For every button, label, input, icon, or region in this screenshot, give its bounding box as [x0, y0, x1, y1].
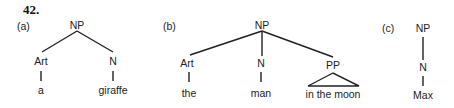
tree-a-root: NP [70, 19, 85, 31]
tree-a-label: (a) [17, 20, 30, 32]
tree-c-root: NP [416, 22, 431, 34]
tree-c-n: N [419, 61, 427, 73]
tree-b-label: (b) [163, 20, 176, 32]
tree-b-pp: PP [326, 59, 340, 71]
tree-b-word-man: man [251, 87, 272, 99]
tree-b-art: Art [180, 57, 194, 69]
tree-a-word-a: a [38, 84, 44, 96]
tree-c-word-max: Max [413, 89, 434, 101]
syntax-tree-figure: 42. (a) NP Art a N giraffe (b) NP Art th… [0, 0, 454, 108]
tree-a-word-giraffe: giraffe [99, 84, 128, 96]
branch-line [42, 31, 77, 52]
tree-b: (b) NP Art the N man PP in the moon [163, 19, 361, 100]
tree-b-n: N [257, 57, 265, 69]
example-number: 42. [23, 2, 39, 17]
tree-b-word-the: the [182, 87, 197, 99]
tree-a-art: Art [34, 55, 48, 67]
tree-b-word-in-the-moon: in the moon [306, 88, 361, 100]
triangle-icon [308, 73, 359, 86]
branch-line [77, 31, 113, 52]
tree-b-root: NP [255, 19, 270, 31]
tree-c: (c) NP N Max [382, 22, 434, 101]
branch-line [190, 31, 262, 55]
tree-a: (a) NP Art a N giraffe [17, 19, 128, 96]
branch-line [262, 31, 333, 57]
tree-c-label: (c) [382, 22, 394, 34]
tree-a-n: N [109, 55, 117, 67]
